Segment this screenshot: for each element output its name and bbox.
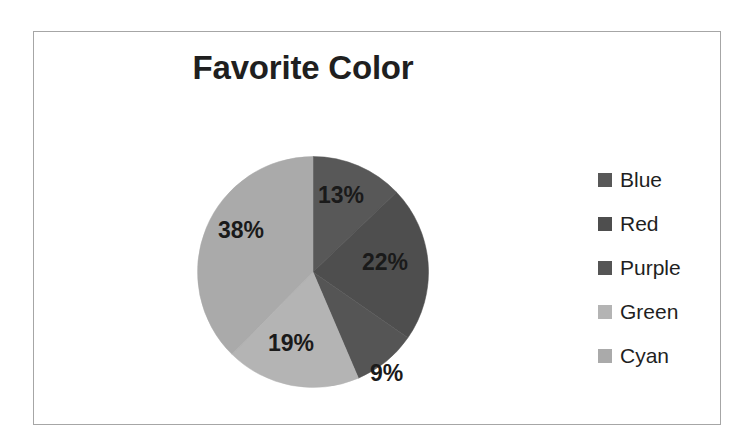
legend-label-green: Green: [620, 300, 678, 324]
slice-label-green: 19%: [268, 330, 314, 356]
legend-label-purple: Purple: [620, 256, 681, 280]
slice-label-blue: 13%: [318, 182, 364, 208]
slice-label-red: 22%: [362, 249, 408, 275]
slice-label-cyan: 38%: [218, 217, 264, 243]
legend-item-red[interactable]: Red: [598, 202, 718, 246]
legend-swatch-purple-icon: [598, 261, 612, 275]
legend-item-cyan[interactable]: Cyan: [598, 334, 718, 378]
legend-item-blue[interactable]: Blue: [598, 158, 718, 202]
legend-item-green[interactable]: Green: [598, 290, 718, 334]
legend-swatch-red-icon: [598, 217, 612, 231]
legend-label-cyan: Cyan: [620, 344, 669, 368]
slice-label-purple: 9%: [370, 360, 403, 386]
legend-label-blue: Blue: [620, 168, 662, 192]
legend-label-red: Red: [620, 212, 659, 236]
legend-swatch-blue-icon: [598, 173, 612, 187]
legend-item-purple[interactable]: Purple: [598, 246, 718, 290]
chart-legend: Blue Red Purple Green Cyan: [598, 158, 718, 378]
chart-title: Favorite Color: [33, 48, 573, 88]
legend-swatch-green-icon: [598, 305, 612, 319]
legend-swatch-cyan-icon: [598, 349, 612, 363]
